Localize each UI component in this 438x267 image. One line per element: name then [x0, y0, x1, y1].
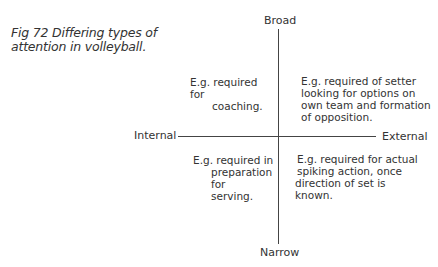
quadrant-text-line: spiking action, once [295, 165, 425, 177]
axis-label-narrow: Narrow [260, 246, 299, 259]
quadrant-broad-external: E.g. required of setter looking for opti… [301, 75, 436, 123]
horizontal-axis-internal-external [178, 136, 376, 137]
caption-line-1: Fig 72 Differing types of [11, 26, 211, 40]
quadrant-text-line: E.g. required of setter [301, 75, 436, 87]
quadrant-text-line: coaching. [190, 100, 275, 112]
axis-label-broad: Broad [264, 14, 296, 27]
axis-label-internal: Internal [134, 129, 176, 142]
quadrant-text-line: own team and formation [301, 99, 436, 111]
quadrant-text-line: direction of set is [295, 177, 425, 189]
quadrant-text-line: E.g. required for [190, 76, 275, 100]
quadrant-text-line: E.g. required for actual [295, 153, 425, 165]
quadrant-text-line: of opposition. [301, 111, 436, 123]
axis-label-external: External [382, 130, 428, 143]
quadrant-text-line: known. [295, 189, 425, 201]
quadrant-text-line: serving. [193, 190, 278, 202]
quadrant-broad-internal: E.g. required for coaching. [190, 76, 275, 112]
caption-line-2: attention in volleyball. [11, 40, 211, 54]
quadrant-narrow-external: E.g. required for actual spiking action,… [295, 153, 425, 201]
quadrant-text-line: preparation for [193, 166, 278, 190]
figure-caption: Fig 72 Differing types of attention in v… [11, 26, 211, 54]
quadrant-text-line: E.g. required in [193, 154, 278, 166]
quadrant-text-line: looking for options on [301, 87, 436, 99]
quadrant-narrow-internal: E.g. required in preparation for serving… [193, 154, 278, 202]
